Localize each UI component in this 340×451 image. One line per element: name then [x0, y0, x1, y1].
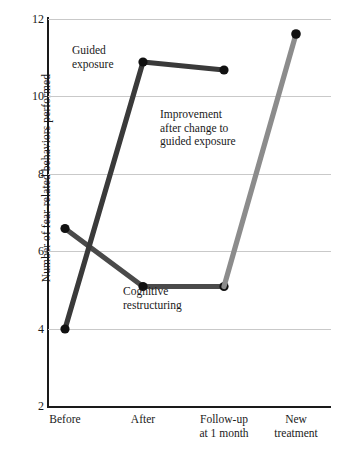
annotation-cognitive-restructuring: Cognitive restructuring [123, 285, 182, 312]
x-tick-label-new-treatment: New treatment [258, 412, 334, 440]
x-tick-label-after: After [103, 412, 183, 426]
annotation-guided-exposure: Guided exposure [72, 44, 114, 71]
x-tick-label-before: Before [25, 412, 105, 426]
annotation-improvement: Improvement after change to guided expos… [160, 108, 236, 149]
datapoint-guided-after [138, 57, 147, 66]
series-layer [0, 0, 340, 451]
series-new-treatment [224, 29, 301, 286]
datapoint-cognitive-before [60, 224, 69, 233]
x-tick-label-followup: Follow-up at 1 month [180, 412, 268, 440]
datapoint-guided-before [60, 324, 69, 333]
line-chart: Number of fear-related behaviors perform… [0, 0, 340, 451]
x-axis-tick-labels: Before After Follow-up at 1 month New tr… [0, 412, 340, 451]
datapoint-guided-followup [219, 65, 228, 74]
series-line-new-treatment [224, 34, 296, 287]
datapoint-new-treatment [291, 29, 301, 39]
series-line-cognitive-restructuring [65, 229, 224, 287]
